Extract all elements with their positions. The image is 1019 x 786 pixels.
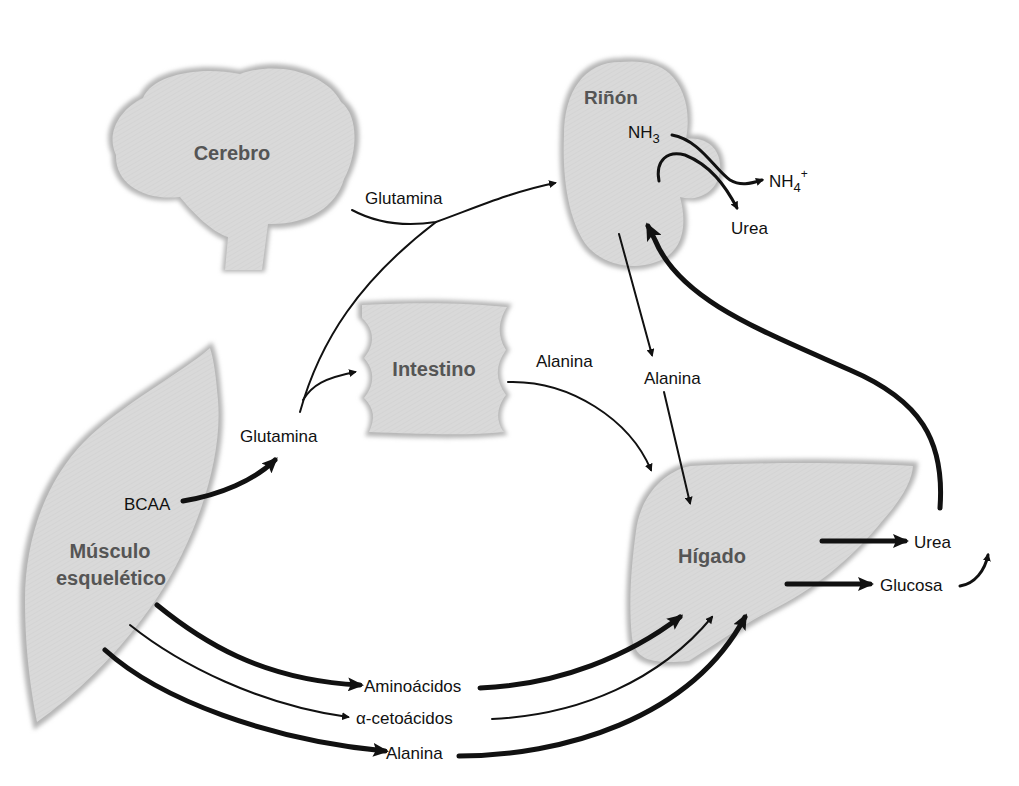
intestine-organ: Intestino xyxy=(358,300,512,438)
muscle-organ: Músculo esquelético xyxy=(20,342,223,730)
muscle-label-line2: esquelético xyxy=(56,567,166,589)
label-liver-urea: Urea xyxy=(914,533,951,552)
arrow-glutamine-to-intestine xyxy=(303,372,355,400)
label-aminoacids: Aminoácidos xyxy=(364,677,461,696)
arrow-muscle-to-alanine xyxy=(105,650,385,751)
label-bcaa: BCAA xyxy=(124,495,171,514)
brain-label: Cerebro xyxy=(194,142,271,164)
label-liver-glucose: Glucosa xyxy=(880,576,943,595)
brain-organ: Cerebro xyxy=(108,64,359,272)
label-alanine: Alanina xyxy=(386,744,443,763)
intestine-label: Intestino xyxy=(392,358,475,380)
arrow-muscle-to-aminoacids xyxy=(157,605,360,685)
diagram-canvas: Cerebro Riñón Intestino Músculo esquelét… xyxy=(0,0,1019,786)
label-muscle-glutamine: Glutamina xyxy=(240,427,318,446)
label-kidney-alanine: Alanina xyxy=(644,369,701,388)
label-brain-glutamine: Glutamina xyxy=(365,189,443,208)
kidney-label: Riñón xyxy=(584,87,638,108)
arrow-glucose-out xyxy=(960,555,988,586)
muscle-label-line1: Músculo xyxy=(69,540,150,562)
label-intestine-alanine: Alanina xyxy=(536,352,593,371)
label-nh4: NH4+ xyxy=(769,167,808,195)
label-ketoacids: α-cetoácidos xyxy=(356,709,453,728)
arrow-intestine-alanine-to-liver xyxy=(508,382,651,470)
liver-label: Hígado xyxy=(678,545,746,567)
label-kidney-urea: Urea xyxy=(731,219,768,238)
arrow-muscle-to-ketoacids xyxy=(130,625,348,717)
liver-organ: Hígado xyxy=(626,459,918,666)
